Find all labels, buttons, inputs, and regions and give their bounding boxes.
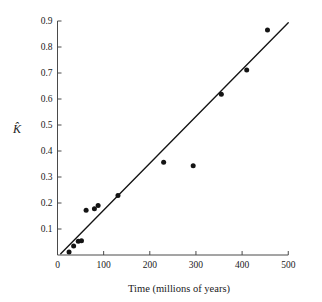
y-tick-label: 0.9	[41, 16, 53, 26]
y-tick-label: 0.8	[41, 42, 53, 52]
y-tick-label: 0.6	[41, 94, 53, 104]
y-tick-label: 0.7	[41, 68, 53, 78]
plot-canvas: 0.10.20.30.40.50.60.70.80.9 010020030040…	[0, 0, 322, 302]
data-point	[219, 92, 224, 97]
y-tick-label: 0.4	[41, 146, 53, 156]
data-point	[265, 28, 270, 33]
y-tick-label: 0.1	[41, 224, 53, 234]
scatter-plot-figure: 0.10.20.30.40.50.60.70.80.9 010020030040…	[0, 0, 322, 302]
data-point	[84, 208, 89, 213]
y-tick-label: 0.3	[41, 172, 53, 182]
data-point-series	[67, 28, 270, 255]
data-point	[115, 193, 120, 198]
x-tick-label: 100	[97, 260, 112, 270]
y-axis-title: K̂	[12, 122, 22, 136]
data-point	[79, 238, 84, 243]
data-point	[244, 67, 249, 72]
data-point	[71, 243, 76, 248]
x-axis-ticks	[104, 251, 289, 255]
y-tick-label: 0.5	[41, 120, 53, 130]
x-tick-label: 500	[281, 260, 296, 270]
y-axis-tick-labels: 0.10.20.30.40.50.60.70.80.9	[41, 16, 53, 234]
y-axis-ticks	[58, 21, 62, 229]
x-axis: 0100200300400500	[55, 251, 296, 270]
data-point	[161, 160, 166, 165]
regression-line-path	[61, 23, 289, 254]
x-tick-label: 400	[235, 260, 250, 270]
data-point	[96, 203, 101, 208]
x-tick-label: 0	[55, 260, 60, 270]
x-axis-title: Time (millions of years)	[128, 283, 230, 295]
x-axis-tick-labels: 0100200300400500	[55, 260, 296, 270]
y-tick-label: 0.2	[41, 198, 53, 208]
regression-line	[61, 23, 289, 254]
data-point	[191, 163, 196, 168]
y-axis: 0.10.20.30.40.50.60.70.80.9	[41, 16, 62, 255]
data-point	[67, 249, 72, 254]
x-tick-label: 300	[189, 260, 204, 270]
x-tick-label: 200	[143, 260, 158, 270]
